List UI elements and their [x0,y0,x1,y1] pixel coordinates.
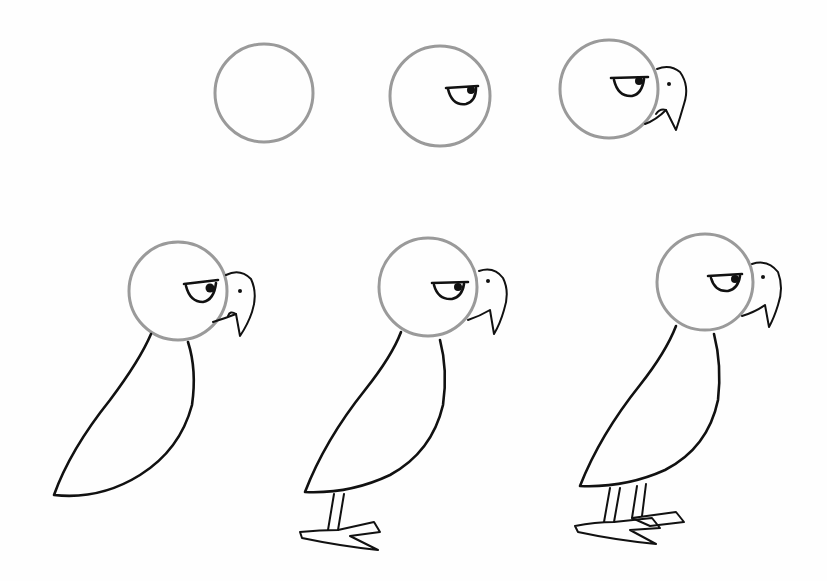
step-6-complete-bird [575,234,781,544]
eye-icon [184,280,218,302]
body-outline [580,326,719,486]
beak-icon [213,272,255,336]
eye-icon [446,86,478,104]
leg-and-foot [300,494,380,550]
step-4-add-body [54,242,255,496]
beak-icon [645,67,686,130]
beak-icon [742,263,781,327]
drawing-canvas [0,0,827,581]
body-outline [305,332,445,492]
bird-tutorial-illustration [0,0,827,581]
step-5-add-leg [300,238,507,550]
eye-icon [708,274,742,291]
step-1-head-circle [215,44,313,142]
body-outline [54,334,194,496]
eye-icon [611,77,648,96]
step-2-head-with-eye [390,46,490,146]
eye-icon [432,282,468,299]
step-3-head-eye-beak [560,40,686,138]
